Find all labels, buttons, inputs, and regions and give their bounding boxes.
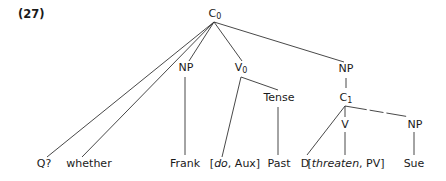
- edge-v0-tense: [241, 77, 278, 90]
- node-v0-subscript: 0: [242, 66, 247, 75]
- node-c0: C0: [209, 8, 222, 23]
- leaf-threaten-word: threaten: [312, 157, 359, 170]
- edge-c1-d: [307, 106, 345, 155]
- leaf-q: Q?: [37, 158, 52, 170]
- leaf-threaten-feature: , PV]: [359, 157, 384, 170]
- edge-c0-q: [47, 22, 214, 157]
- node-np-subject: NP: [179, 62, 194, 74]
- node-c1-cat: C: [340, 91, 348, 104]
- node-c1: C1: [340, 92, 353, 107]
- edge-c0-np-subject: [189, 22, 214, 61]
- node-c0-cat: C: [209, 7, 217, 20]
- node-v: V: [341, 119, 349, 131]
- edge-c0-np-object: [214, 22, 344, 62]
- edge-c0-v0: [214, 22, 242, 61]
- leaf-sue: Sue: [404, 158, 425, 170]
- edge-c1-np: [345, 106, 410, 117]
- leaf-threaten-pv: [threaten, PV]: [307, 158, 384, 170]
- leaf-do-aux: [do, Aux]: [210, 158, 260, 170]
- node-np-inner: NP: [408, 119, 423, 131]
- tree-edges: [0, 0, 446, 181]
- node-v0-cat: V: [235, 61, 243, 74]
- edge-c0-whether: [82, 22, 214, 157]
- leaf-do-feature: , Aux]: [228, 157, 260, 170]
- node-c1-subscript: 1: [347, 96, 352, 105]
- leaf-frank: Frank: [170, 158, 200, 170]
- edge-v0-do: [222, 77, 241, 157]
- node-tense: Tense: [263, 92, 294, 104]
- leaf-whether: whether: [66, 158, 111, 170]
- node-np-object: NP: [339, 63, 354, 75]
- leaf-past: Past: [268, 158, 291, 170]
- leaf-do-word: do: [214, 157, 228, 170]
- example-number: (27): [18, 7, 45, 21]
- syntax-tree-figure: (27) C0 NP V0 Tense NP C1 V NP Q? whethe…: [0, 0, 446, 181]
- node-c0-subscript: 0: [216, 12, 221, 21]
- node-v0: V0: [235, 62, 248, 77]
